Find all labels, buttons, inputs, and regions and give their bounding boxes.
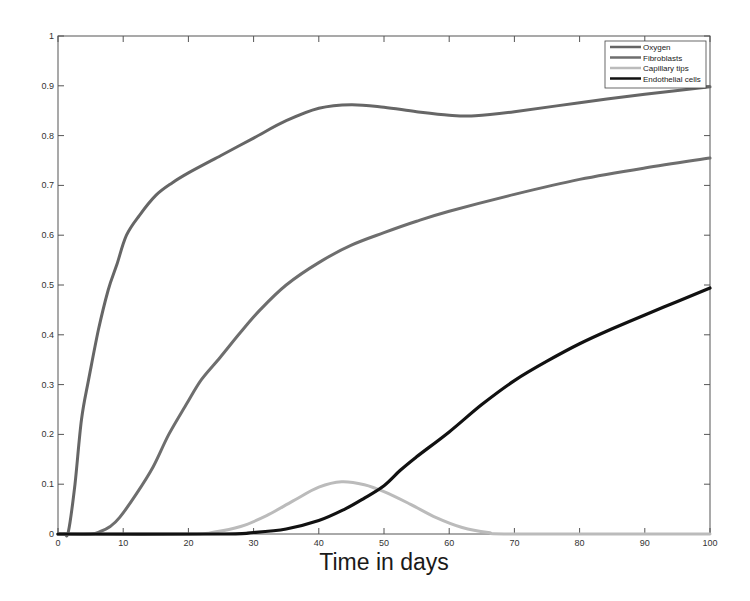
- x-tick-label: 10: [118, 538, 128, 548]
- x-tick-label: 0: [55, 538, 60, 548]
- legend: OxygenFibroblastsCapillary tipsEndotheli…: [605, 41, 706, 88]
- x-tick-label: 20: [183, 538, 193, 548]
- y-tick-label: 0.2: [41, 429, 54, 439]
- legend-label: Oxygen: [643, 43, 671, 52]
- y-tick-label: 0.5: [41, 280, 54, 290]
- line-chart: 0102030405060708090100 00.10.20.30.40.50…: [0, 0, 750, 601]
- x-tick-label: 100: [702, 538, 717, 548]
- legend-label: Fibroblasts: [643, 54, 682, 63]
- y-tick-label: 0.1: [41, 479, 54, 489]
- legend-label: Capillary tips: [643, 64, 689, 73]
- y-tick-label: 0.4: [41, 330, 54, 340]
- x-tick-label: 40: [314, 538, 324, 548]
- y-tick-label: 0.6: [41, 230, 54, 240]
- x-tick-label: 80: [575, 538, 585, 548]
- x-tick-label: 70: [509, 538, 519, 548]
- y-tick-label: 0.8: [41, 131, 54, 141]
- y-tick-label: 0.9: [41, 81, 54, 91]
- x-tick-label: 30: [249, 538, 259, 548]
- y-tick-label: 0.3: [41, 380, 54, 390]
- legend-label: Endothelial cells: [643, 75, 701, 84]
- x-tick-label: 60: [444, 538, 454, 548]
- x-axis-label: Time in days: [319, 549, 449, 575]
- x-tick-label: 90: [640, 538, 650, 548]
- y-tick-label: 0: [49, 529, 54, 539]
- y-tick-label: 0.7: [41, 180, 54, 190]
- x-tick-label: 50: [379, 538, 389, 548]
- y-tick-label: 1: [49, 31, 54, 41]
